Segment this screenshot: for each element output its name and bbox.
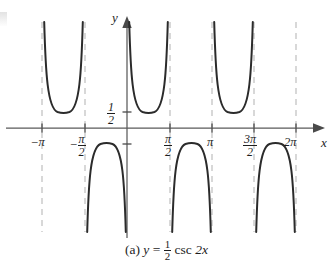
y-axis-label: y [112, 11, 118, 24]
caption-argument: 2x [195, 242, 208, 257]
branch-up-neg-pi-to-neg-half-pi [44, 22, 83, 113]
pi-glyph: π [39, 135, 45, 149]
fraction-denominator: 2 [164, 146, 172, 158]
x-tick-label-pi-over-2: π2 [164, 133, 172, 158]
x-tick-label-three-pi-over-2: 3π2 [243, 133, 257, 158]
fraction-numerator: π [78, 133, 86, 146]
caption-variable-y: y [143, 242, 149, 257]
caption-fraction-one-half: 12 [164, 239, 172, 262]
x-tick-label-pi: π [207, 136, 213, 149]
figure-root: −π −π2 π2 π 3π2 2π 12 y x (a) y = 12 csc… [0, 0, 333, 269]
x-axis-label: x [321, 136, 327, 149]
caption-function-name: csc [175, 242, 192, 257]
branch-down-half-pi-to-pi [172, 143, 211, 232]
minus-sign: − [31, 137, 39, 150]
pi-glyph: 2π [284, 135, 297, 149]
fraction-numerator: 1 [107, 101, 115, 114]
x-tick-label-two-pi: 2π [284, 136, 297, 149]
y-tick-label-one-half: 12 [107, 101, 115, 126]
branch-up-zero-to-half-pi [129, 22, 168, 113]
fraction-denominator: 2 [107, 114, 115, 126]
figure-caption: (a) y = 12 csc 2x [0, 239, 333, 262]
fraction: 3π2 [243, 133, 257, 158]
fraction: π2 [78, 133, 86, 158]
fraction-numerator: 1 [164, 239, 172, 251]
pi-glyph: π [207, 135, 213, 149]
fraction: 12 [107, 101, 115, 126]
fraction-denominator: 2 [243, 146, 257, 158]
branch-down-neg-half-pi-to-zero [87, 143, 126, 232]
caption-equals: = [153, 242, 161, 257]
fraction: π2 [164, 133, 172, 158]
x-tick-label-neg-pi: −π [31, 136, 45, 149]
branch-down-three-half-pi-to-two-pi [256, 143, 295, 232]
minus-sign: − [70, 139, 78, 152]
x-tick-label-neg-pi-over-2: −π2 [70, 133, 86, 158]
fraction-numerator: 3π [243, 133, 257, 146]
branch-up-pi-to-three-half-pi [214, 22, 253, 113]
fraction-denominator: 2 [78, 146, 86, 158]
caption-label: (a) [125, 242, 140, 257]
fraction-denominator: 2 [164, 251, 172, 262]
fraction-numerator: π [164, 133, 172, 146]
